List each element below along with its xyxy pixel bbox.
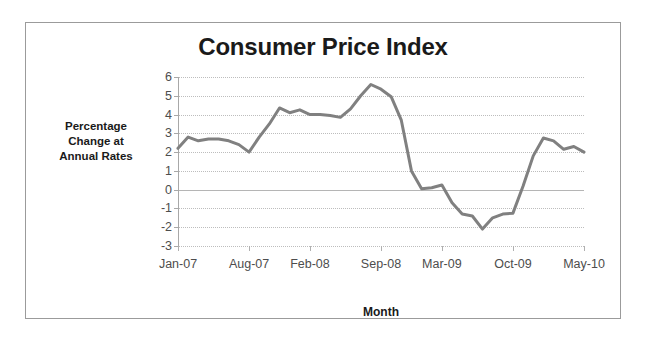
x-tick-label: Feb-08 [290,257,330,271]
x-tick-mark [178,246,179,251]
x-tick-label: Mar-09 [422,257,462,271]
x-tick-label: Sep-08 [361,257,401,271]
chart-title: Consumer Price Index [26,33,620,61]
y-tick-label: 1 [146,164,172,178]
plot-inner: 6543210-1-2-3 Jan-07Aug-07Feb-08Sep-08Ma… [178,77,584,246]
y-tick-label: 2 [146,145,172,159]
x-tick-mark [381,246,382,251]
chart-figure: Consumer Price Index Percentage Change a… [0,0,648,341]
y-tick-label: -3 [146,239,172,253]
x-tick-mark [442,246,443,251]
y-axis-title-line-1: Percentage [36,119,156,134]
y-tick-label: 3 [146,126,172,140]
y-tick-label: -1 [146,201,172,215]
y-axis-title: Percentage Change at Annual Rates [36,119,156,164]
x-tick-label: May-10 [563,257,605,271]
series-polyline [178,85,584,230]
y-tick-label: 0 [146,183,172,197]
x-tick-label: Jan-07 [159,257,197,271]
y-tick-label: 5 [146,89,172,103]
x-tick-label: Aug-07 [229,257,269,271]
x-axis-title: Month [178,305,584,319]
plot-area: 6543210-1-2-3 Jan-07Aug-07Feb-08Sep-08Ma… [178,77,584,246]
x-tick-mark [249,246,250,251]
figure-border: Consumer Price Index Percentage Change a… [25,22,621,319]
x-tick-mark [584,246,585,251]
y-tick-label: -2 [146,220,172,234]
y-tick-label: 6 [146,70,172,84]
x-tick-mark [310,246,311,251]
y-axis-title-line-3: Annual Rates [36,149,156,164]
x-tick-label: Oct-09 [494,257,532,271]
y-axis-title-line-2: Change at [36,134,156,149]
data-series-line [178,77,584,246]
y-tick-label: 4 [146,108,172,122]
x-tick-mark [513,246,514,251]
